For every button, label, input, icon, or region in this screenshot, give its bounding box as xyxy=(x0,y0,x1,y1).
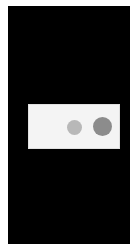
loading-dot-icon xyxy=(93,117,112,136)
device-screen xyxy=(8,6,130,244)
loading-dot-icon xyxy=(67,120,82,135)
loading-dialog xyxy=(28,104,120,149)
